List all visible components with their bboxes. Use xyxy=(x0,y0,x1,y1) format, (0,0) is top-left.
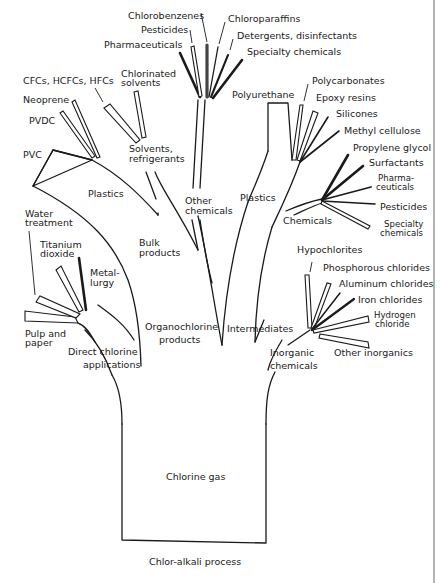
label-metallurgy-2: lurgy xyxy=(90,277,114,288)
label-polycarbonates: Polycarbonates xyxy=(312,75,385,86)
label-specialty-right-2: chemicals xyxy=(380,228,424,238)
label-iron: Iron chlorides xyxy=(358,294,422,305)
label-titanium-2: dioxide xyxy=(40,248,74,259)
label-chemicals-right: Chemicals xyxy=(283,215,332,226)
label-inorganic-1: Inorganic xyxy=(270,347,314,358)
label-aluminum: Aluminum chlorides xyxy=(339,278,433,289)
diagram-title: Chlor-alkali process xyxy=(149,556,241,567)
label-chlorine-gas: Chlorine gas xyxy=(166,471,225,482)
label-plastics-left: Plastics xyxy=(88,188,124,199)
label-organochlorine-2: products xyxy=(159,334,201,345)
solvents-branch xyxy=(134,91,198,250)
label-direct-chlorine-1: Direct chlorine xyxy=(68,346,138,357)
label-hydrogen-2: chloride xyxy=(375,319,409,329)
label-pharma-2: ceuticals xyxy=(376,182,415,192)
label-plastics-right: Plastics xyxy=(240,192,276,203)
label-pesticides-top: Pesticides xyxy=(141,24,188,35)
chlorine-tree-diagram: Chlorobenzenes Chloroparaffins Pesticide… xyxy=(0,0,440,583)
label-intermediates: Intermediates xyxy=(227,323,293,334)
label-other-chemicals-2: chemicals xyxy=(185,205,233,216)
label-organochlorine-1: Organochlorine xyxy=(145,321,218,332)
label-cfcs: CFCs, HCFCs, HFCs xyxy=(23,75,114,86)
label-silicones: Silicones xyxy=(336,108,378,119)
label-propylene-glycol: Propylene glycol xyxy=(353,142,431,153)
label-surfactants: Surfactants xyxy=(369,157,424,168)
label-water-2: treatment xyxy=(25,217,73,228)
inorganic-branch xyxy=(288,262,369,348)
label-pulp-2: paper xyxy=(25,337,53,348)
label-pesticides-right: Pesticides xyxy=(380,201,427,212)
label-hypochlorites: Hypochlorites xyxy=(297,244,362,255)
label-neoprene: Neoprene xyxy=(23,94,69,105)
label-specialty-top: Specialty chemicals xyxy=(247,46,341,57)
label-solvents-2: refrigerants xyxy=(129,153,185,164)
label-inorganic-2: chemicals xyxy=(270,360,318,371)
label-phosphorous: Phosphorous chlorides xyxy=(323,262,430,273)
label-pvdc: PVDC xyxy=(29,115,56,126)
label-pharmaceuticals-top: Pharmaceuticals xyxy=(104,39,183,50)
label-chloroparaffins: Chloroparaffins xyxy=(228,13,300,24)
label-pvc: PVC xyxy=(23,149,42,160)
label-chlorobenzenes: Chlorobenzenes xyxy=(128,10,204,21)
label-epoxy: Epoxy resins xyxy=(316,92,376,103)
label-polyurethane: Polyurethane xyxy=(232,89,295,100)
other-chemicals-branch xyxy=(180,13,242,283)
label-other-inorganics: Other inorganics xyxy=(334,347,413,358)
label-chlorinated-2: solvents xyxy=(121,77,161,88)
label-bulk-2: products xyxy=(139,247,181,258)
label-direct-chlorine-2: applications xyxy=(83,359,140,370)
label-detergents: Detergents, disinfectants xyxy=(237,30,357,41)
label-methyl-cellulose: Methyl cellulose xyxy=(344,125,421,136)
